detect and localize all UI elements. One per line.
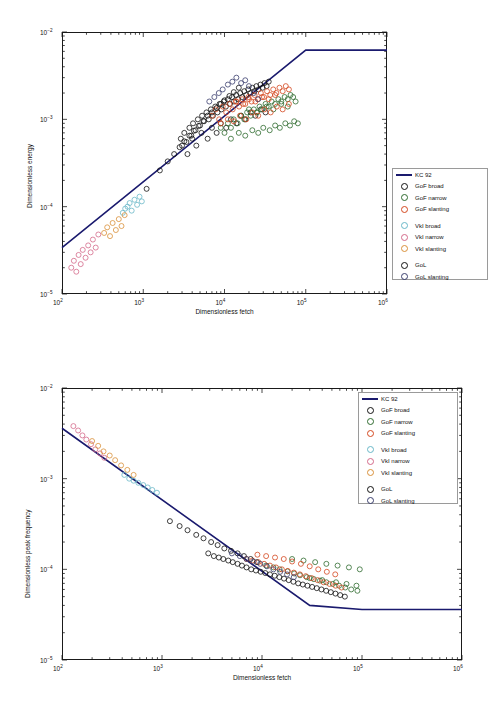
data-point bbox=[313, 560, 318, 565]
data-point bbox=[187, 125, 192, 130]
data-point bbox=[264, 554, 269, 559]
data-point bbox=[253, 568, 258, 573]
data-point bbox=[129, 208, 134, 213]
data-point bbox=[273, 123, 278, 128]
legend-item-kc-92: KC 92 bbox=[359, 393, 457, 405]
legend-label: GoF narrow bbox=[415, 195, 447, 201]
data-point bbox=[93, 245, 98, 250]
y-tick-label: 10−2 bbox=[40, 384, 52, 392]
legend-item-vki-slanting: VkI slanting bbox=[393, 243, 487, 255]
y-tick-label: 10−3 bbox=[40, 115, 52, 123]
legend-item-vki-broad: VkI broad bbox=[393, 220, 487, 232]
data-point bbox=[119, 224, 124, 229]
data-point bbox=[324, 588, 329, 593]
data-point bbox=[298, 561, 303, 566]
legend-item-gof-narrow: GoF narrow bbox=[359, 416, 457, 428]
data-point bbox=[225, 82, 230, 87]
data-point bbox=[283, 121, 288, 126]
data-point bbox=[88, 250, 93, 255]
legend-line-swatch bbox=[396, 174, 412, 176]
legend-label: GoL bbox=[381, 486, 392, 492]
data-point bbox=[205, 136, 210, 141]
x-tick-label: 106 bbox=[378, 298, 388, 306]
data-point bbox=[211, 554, 216, 559]
legend-label: VkI slanting bbox=[381, 470, 412, 476]
data-point bbox=[154, 490, 159, 495]
data-point bbox=[132, 197, 137, 202]
legend-item-kc-92: KC 92 bbox=[393, 169, 487, 181]
x-axis-title-b: Dimensionless fetch bbox=[62, 674, 462, 681]
legend-circle-swatch bbox=[401, 222, 408, 229]
legend-label: GoF slanting bbox=[381, 430, 415, 436]
data-point bbox=[102, 230, 107, 235]
data-point bbox=[293, 99, 298, 104]
data-point bbox=[110, 221, 115, 226]
data-point bbox=[167, 519, 172, 524]
data-point bbox=[96, 443, 101, 448]
legend-symbol bbox=[359, 497, 381, 504]
legend-item-gof-narrow: GoF narrow bbox=[393, 192, 487, 204]
legend-item-gol-slanting: GoL slanting bbox=[393, 271, 487, 283]
data-point bbox=[191, 121, 196, 126]
legend-circle-swatch bbox=[401, 183, 408, 190]
legend-item-gof-broad: GoF broad bbox=[393, 181, 487, 193]
data-point bbox=[76, 252, 81, 257]
data-point bbox=[357, 567, 362, 572]
x-tick-label: 102 bbox=[53, 664, 63, 672]
data-point bbox=[251, 107, 256, 112]
data-point bbox=[209, 110, 214, 115]
data-point bbox=[182, 130, 187, 135]
data-point bbox=[90, 439, 95, 444]
data-point bbox=[185, 152, 190, 157]
x-tick-label: 105 bbox=[353, 664, 363, 672]
legend-symbol bbox=[359, 418, 381, 425]
legend-item-vki-narrow: VkI narrow bbox=[393, 232, 487, 244]
data-point bbox=[220, 87, 225, 92]
legend-circle-swatch bbox=[367, 486, 374, 493]
data-point bbox=[194, 532, 199, 537]
legend-item-gof-broad: GoF broad bbox=[359, 405, 457, 417]
data-point bbox=[281, 557, 286, 562]
data-point bbox=[83, 255, 88, 260]
data-point bbox=[84, 437, 89, 442]
data-point bbox=[243, 78, 248, 83]
data-point bbox=[177, 524, 182, 529]
series-vki-slanting bbox=[90, 439, 137, 478]
x-tick-label: 104 bbox=[216, 298, 226, 306]
legend-circle-swatch bbox=[367, 446, 374, 453]
data-point bbox=[342, 594, 347, 599]
legend-circle-swatch bbox=[401, 234, 408, 241]
data-point bbox=[204, 110, 209, 115]
data-point bbox=[222, 130, 227, 135]
y-tick-label: 10−4 bbox=[40, 203, 52, 211]
legend-symbol bbox=[393, 206, 415, 213]
y-tick-label: 10−3 bbox=[40, 475, 52, 483]
data-point bbox=[207, 99, 212, 104]
data-point bbox=[215, 543, 220, 548]
legend-symbol bbox=[359, 430, 381, 437]
data-point bbox=[349, 587, 354, 592]
data-point bbox=[261, 125, 266, 130]
data-point bbox=[316, 567, 321, 572]
data-point bbox=[194, 143, 199, 148]
data-point bbox=[314, 586, 319, 591]
series-gol bbox=[144, 85, 241, 191]
legend-circle-swatch bbox=[401, 194, 408, 201]
data-point bbox=[185, 528, 190, 533]
data-point bbox=[178, 136, 183, 141]
data-point bbox=[255, 552, 260, 557]
legend-symbol bbox=[359, 486, 381, 493]
legend-item-gol: GoL bbox=[393, 260, 487, 272]
data-point bbox=[286, 578, 291, 583]
legend-label: VkI narrow bbox=[415, 234, 444, 240]
y-tick-label: 10−5 bbox=[40, 290, 52, 298]
data-point bbox=[283, 84, 288, 89]
legend-label: GoL slanting bbox=[415, 274, 448, 280]
series-gol bbox=[167, 519, 259, 565]
legend-label: VkI broad bbox=[415, 223, 441, 229]
data-point bbox=[250, 128, 255, 133]
data-point bbox=[354, 583, 359, 588]
x-axis-title-a: Dimensionless fetch bbox=[62, 308, 387, 315]
legend-label: GoF broad bbox=[381, 407, 410, 413]
legend-item-gof-slanting: GoF slanting bbox=[359, 428, 457, 440]
